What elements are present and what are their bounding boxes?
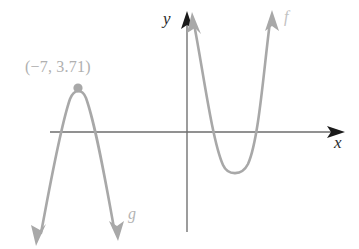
curve-g-right-arrowhead-icon xyxy=(109,221,124,241)
x-axis-label: x xyxy=(334,134,342,151)
coordinate-plane-svg xyxy=(0,0,359,249)
curve-g-label: g xyxy=(128,206,136,222)
vertex-point-dot xyxy=(73,83,82,92)
graph-figure: y x f g (−7, 3.71) xyxy=(0,0,359,249)
y-axis-label: y xyxy=(163,10,171,27)
vertex-coordinate-label: (−7, 3.71) xyxy=(25,59,91,75)
curve-g-left-arrowhead-icon xyxy=(31,224,46,246)
curve-g-path xyxy=(41,91,114,233)
curve-f-label: f xyxy=(284,9,288,25)
curve-f-path xyxy=(194,22,270,173)
curve-f-right-arrowhead-icon xyxy=(265,10,279,31)
